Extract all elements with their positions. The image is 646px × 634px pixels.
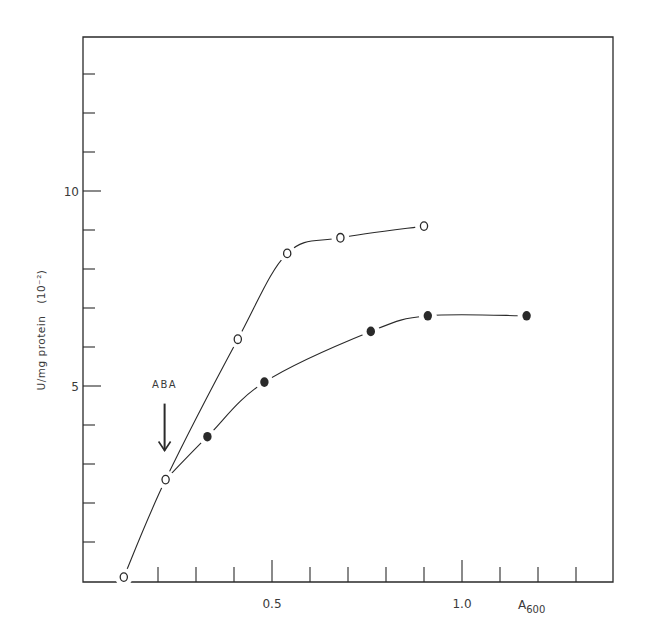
plot-frame (83, 37, 613, 582)
open-circle-marker (120, 573, 127, 582)
open-circle-marker (284, 249, 291, 258)
filled-circle-marker (522, 311, 530, 321)
filled-circle-marker (367, 327, 375, 337)
series-curves (124, 226, 527, 577)
y-tick-label: 10 (64, 185, 79, 199)
open-circle-marker (420, 222, 427, 231)
x-axis-ticks: 0.51.0 (158, 560, 576, 611)
y-axis-unit: (10⁻²) (35, 270, 47, 304)
annotations: ABA (152, 379, 177, 451)
y-axis-title: U/mg protein (10⁻²) (35, 270, 47, 391)
y-axis-label: U/mg protein (35, 316, 47, 391)
y-tick-label: 5 (71, 380, 79, 394)
filled-circle-marker (203, 432, 211, 442)
series-line-0 (124, 226, 424, 577)
plot-border (83, 37, 613, 582)
aba-annotation-label: ABA (152, 379, 177, 390)
series-markers (115, 217, 536, 586)
filled-circle-marker (260, 377, 268, 387)
open-circle-marker (234, 335, 241, 344)
open-circle-marker (337, 234, 344, 243)
filled-circle-marker (424, 311, 432, 321)
x-tick-label: 0.5 (262, 597, 281, 611)
chart: 0.51.0 510 ABA U/mg protein (10⁻²) A600 (0, 0, 646, 634)
x-axis-subscript: 600 (526, 604, 545, 615)
x-tick-label: 1.0 (452, 597, 471, 611)
x-axis-title: A600 (518, 598, 545, 615)
series-line-1 (166, 315, 527, 480)
open-circle-marker (162, 475, 169, 484)
